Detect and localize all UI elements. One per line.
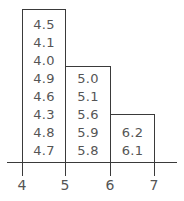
data-value: 4.6 bbox=[33, 88, 54, 106]
data-value: 4.3 bbox=[33, 106, 54, 124]
bar-4-to-5: 4.5 4.1 4.0 4.9 4.6 4.3 4.8 4.7 bbox=[22, 9, 66, 163]
data-value: 4.1 bbox=[33, 34, 54, 52]
x-tick bbox=[110, 162, 111, 176]
data-value: 6.2 bbox=[122, 124, 143, 142]
data-value: 4.9 bbox=[33, 70, 54, 88]
bar-5-to-6: 5.0 5.1 5.6 5.9 5.8 bbox=[65, 66, 111, 163]
bar-values: 6.2 6.1 bbox=[111, 124, 154, 160]
x-tick-label: 6 bbox=[100, 177, 120, 193]
data-value: 6.1 bbox=[122, 142, 143, 160]
data-value: 5.9 bbox=[77, 124, 98, 142]
bar-values: 4.5 4.1 4.0 4.9 4.6 4.3 4.8 4.7 bbox=[23, 16, 65, 160]
x-tick-label: 5 bbox=[55, 177, 75, 193]
data-value: 5.6 bbox=[77, 106, 98, 124]
x-tick bbox=[154, 162, 155, 176]
data-value: 4.8 bbox=[33, 124, 54, 142]
data-value: 4.7 bbox=[33, 142, 54, 160]
histogram-chart: 4.5 4.1 4.0 4.9 4.6 4.3 4.8 4.7 5.0 5.1 … bbox=[0, 0, 184, 201]
data-value: 5.0 bbox=[77, 70, 98, 88]
data-value: 5.8 bbox=[77, 142, 98, 160]
bar-6-to-7: 6.2 6.1 bbox=[110, 114, 155, 163]
x-tick bbox=[65, 162, 66, 176]
x-tick bbox=[22, 162, 23, 176]
x-tick-label: 4 bbox=[12, 177, 32, 193]
bar-values: 5.0 5.1 5.6 5.9 5.8 bbox=[66, 70, 110, 160]
data-value: 4.0 bbox=[33, 52, 54, 70]
data-value: 5.1 bbox=[77, 88, 98, 106]
x-tick-label: 7 bbox=[144, 177, 164, 193]
data-value: 4.5 bbox=[33, 16, 54, 34]
x-axis-line bbox=[7, 162, 177, 163]
